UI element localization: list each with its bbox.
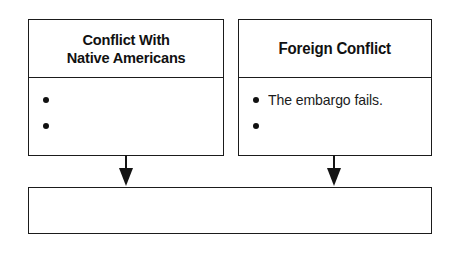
box-foreign-conflict: Foreign Conflict The embargo fails. [238,19,432,156]
bullet-item[interactable] [252,117,422,135]
box-body-foreign-conflict: The embargo fails. [239,78,431,155]
down-arrow-icon [324,155,344,187]
box-body-result [29,188,431,233]
bullet-item[interactable] [42,91,214,109]
box-title-foreign-conflict: Foreign Conflict [279,40,391,58]
box-title-native-americans: Conflict With Native Americans [67,31,186,66]
bullet-list-native-americans [42,91,214,135]
diagram-canvas: Conflict With Native Americans Foreign C… [0,0,467,256]
bullet-text: The embargo fails. [268,91,383,109]
box-result[interactable] [28,187,432,234]
box-conflict-with-native-americans: Conflict With Native Americans [28,19,224,156]
down-arrow-icon [116,155,136,187]
bullet-item[interactable] [42,117,214,135]
box-body-native-americans [29,78,223,155]
box-header-native-americans: Conflict With Native Americans [29,20,223,78]
box-header-foreign-conflict: Foreign Conflict [239,20,431,78]
bullet-list-foreign-conflict: The embargo fails. [252,91,422,135]
bullet-item[interactable]: The embargo fails. [252,91,422,109]
